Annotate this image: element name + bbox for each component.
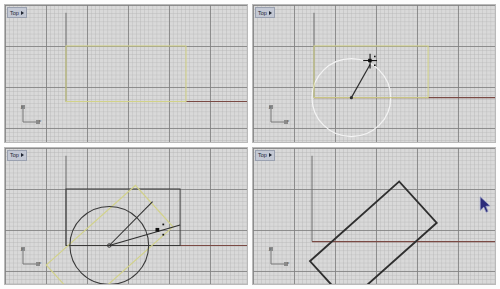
viewport-grid: Top y x (0, 0, 500, 289)
arrow-cursor (480, 196, 490, 212)
viewport-title-label: Top (258, 9, 267, 17)
geometry-layer-3 (5, 148, 247, 285)
chevron-down-icon[interactable] (21, 11, 24, 15)
black-rectangle-outline (66, 188, 180, 245)
viewport-title-tab[interactable]: Top (7, 150, 27, 161)
chevron-down-icon[interactable] (269, 11, 272, 15)
viewport-title-tab[interactable]: Top (255, 7, 275, 18)
geometry-layer-4 (253, 148, 495, 285)
chevron-down-icon[interactable] (21, 153, 24, 157)
yellow-rectangle[interactable] (66, 46, 186, 102)
chevron-down-icon[interactable] (269, 153, 272, 157)
viewport-top-right[interactable]: Top y x (252, 4, 496, 143)
viewport-bottom-right[interactable]: Top y x (252, 147, 496, 286)
rotation-origin-point (350, 96, 353, 99)
viewport-title-label: Top (10, 151, 19, 159)
viewport-bottom-left[interactable]: Top y x (4, 147, 248, 286)
black-rotated-rectangle[interactable] (310, 181, 437, 284)
yellow-rectangle[interactable] (314, 46, 428, 98)
viewport-title-label: Top (10, 9, 19, 17)
viewport-title-tab[interactable]: Top (255, 150, 275, 161)
viewport-top-left[interactable]: Top y x (4, 4, 248, 143)
geometry-layer-2 (253, 5, 495, 142)
viewport-title-tab[interactable]: Top (7, 7, 27, 18)
yellow-rotated-rectangle[interactable] (46, 185, 173, 284)
rotation-reference-line (351, 64, 370, 97)
geometry-layer-1 (5, 5, 247, 142)
viewport-title-label: Top (258, 151, 267, 159)
